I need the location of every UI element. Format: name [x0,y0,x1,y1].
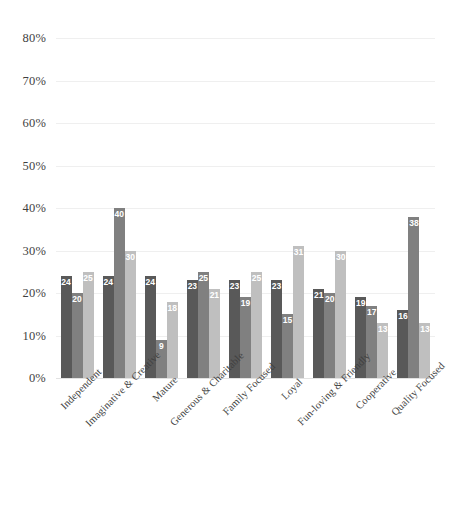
x-axis-label-cell: Family Focused [224,379,266,504]
bar-value-label: 40 [114,210,123,219]
x-axis-label-cell: Loyal [267,379,309,504]
y-axis-tick-label: 80% [22,31,46,46]
bar-group: 163813 [393,38,435,378]
bar[interactable]: 30 [335,251,346,379]
bar[interactable]: 38 [408,217,419,379]
bar[interactable]: 17 [366,306,377,378]
bar-value-label: 25 [83,274,92,283]
bar-value-label: 13 [420,325,429,334]
bar-value-label: 24 [61,278,70,287]
y-axis-tick-label: 60% [22,116,46,131]
bar-value-label: 20 [325,295,334,304]
bar-value-label: 21 [314,291,323,300]
y-axis-tick-label: 30% [22,243,46,258]
bar-group: 232521 [182,38,224,378]
bar[interactable]: 25 [83,272,94,378]
y-axis-tick-label: 70% [22,73,46,88]
bar-chart: 0%10%20%30%40%50%60%70%80% 2420252440302… [0,0,460,507]
bar[interactable]: 23 [187,280,198,378]
bar-value-label: 24 [103,278,112,287]
bar[interactable]: 20 [324,293,335,378]
bar[interactable]: 21 [209,289,220,378]
bar-value-label: 30 [336,253,345,262]
bar-group: 242025 [56,38,98,378]
bar-value-label: 21 [210,291,219,300]
bar-value-label: 25 [252,274,261,283]
x-axis-label-cell: Imaginative & Creative [98,379,140,504]
bar-group: 191713 [351,38,393,378]
x-axis-label-cell: Quality Focused [393,379,435,504]
x-axis-label-cell: Cooperative [351,379,393,504]
x-axis-label-cell: Generous & Charitable [182,379,224,504]
bar[interactable]: 16 [397,310,408,378]
bar-value-label: 9 [159,342,164,351]
bar-value-label: 19 [241,299,250,308]
bar-value-label: 23 [272,282,281,291]
bar-value-label: 20 [72,295,81,304]
y-axis: 0%10%20%30%40%50%60%70%80% [0,0,52,507]
y-axis-tick-label: 50% [22,158,46,173]
bar[interactable]: 31 [293,246,304,378]
bar-value-label: 18 [168,304,177,313]
bar-groups: 2420252440302491823252123192523153121203… [56,38,435,378]
bar-group: 231531 [267,38,309,378]
bar-group: 244030 [98,38,140,378]
bar-group: 212030 [309,38,351,378]
bar[interactable]: 25 [198,272,209,378]
bar-value-label: 38 [409,219,418,228]
x-axis-tick-label: Mature [150,374,180,404]
y-axis-tick-label: 0% [29,371,46,386]
bar[interactable]: 30 [125,251,136,379]
x-axis-tick-label: Loyal [279,376,304,401]
bar-value-label: 24 [146,278,155,287]
bar-value-label: 31 [294,248,303,257]
x-axis-label-cell: Mature [140,379,182,504]
bar[interactable]: 21 [313,289,324,378]
bar[interactable]: 40 [114,208,125,378]
bar-group: 24918 [140,38,182,378]
x-axis-labels: IndependentImaginative & CreativeMatureG… [56,379,435,504]
bar[interactable]: 24 [61,276,72,378]
bar-value-label: 23 [230,282,239,291]
y-axis-tick-label: 40% [22,201,46,216]
bar-value-label: 23 [188,282,197,291]
y-axis-tick-label: 10% [22,328,46,343]
bar[interactable]: 20 [72,293,83,378]
plot-area: 2420252440302491823252123192523153121203… [56,38,435,378]
bar-value-label: 17 [367,308,376,317]
bar-value-label: 25 [199,274,208,283]
bar-value-label: 16 [398,312,407,321]
bar[interactable]: 24 [103,276,114,378]
bar[interactable]: 19 [240,297,251,378]
bar[interactable]: 25 [251,272,262,378]
bar-value-label: 19 [356,299,365,308]
bar[interactable]: 18 [167,302,178,379]
bar-group: 231925 [224,38,266,378]
x-axis-label-cell: Fun-loving & Friendly [309,379,351,504]
bar-value-label: 15 [283,316,292,325]
y-axis-tick-label: 20% [22,286,46,301]
bar[interactable]: 15 [282,314,293,378]
x-axis-label-cell: Independent [56,379,98,504]
bar-value-label: 13 [378,325,387,334]
bar-value-label: 30 [125,253,134,262]
